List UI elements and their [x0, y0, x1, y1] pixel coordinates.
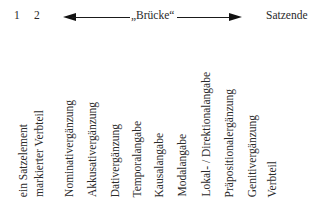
arrow-left-line [72, 17, 130, 18]
label-markierter-verbteil: markierter Verbteil [34, 110, 46, 197]
label-genitivergaenzung: Genitivergänzung [247, 115, 259, 197]
label-ein-satzelement: ein Satzelement [18, 124, 30, 197]
arrow-right-line [177, 17, 233, 18]
label-praepositionalergaenzung: Präpositionalergänzung [224, 89, 236, 197]
sentence-end-label: Satzende [266, 10, 308, 22]
label-lokal-direktionalangabe: Lokal- / Direktionalangabe [201, 72, 213, 197]
position-1-label: 1 [14, 10, 20, 22]
label-modalangabe: Modalangabe [177, 134, 189, 197]
label-verbteil: Verbteil [267, 161, 279, 197]
bridge-label: „Brücke“ [131, 10, 174, 22]
arrow-right-icon [229, 13, 242, 21]
label-nominativergaenzung: Nominativergänzung [64, 100, 76, 197]
label-temporalangabe: Temporalangabe [132, 121, 144, 197]
label-akkusativergaenzung: Akkusativergänzung [87, 102, 99, 197]
label-kausalangabe: Kausalangabe [154, 133, 166, 198]
label-dativergaenzung: Dativergänzung [110, 124, 122, 197]
position-2-label: 2 [34, 10, 40, 22]
